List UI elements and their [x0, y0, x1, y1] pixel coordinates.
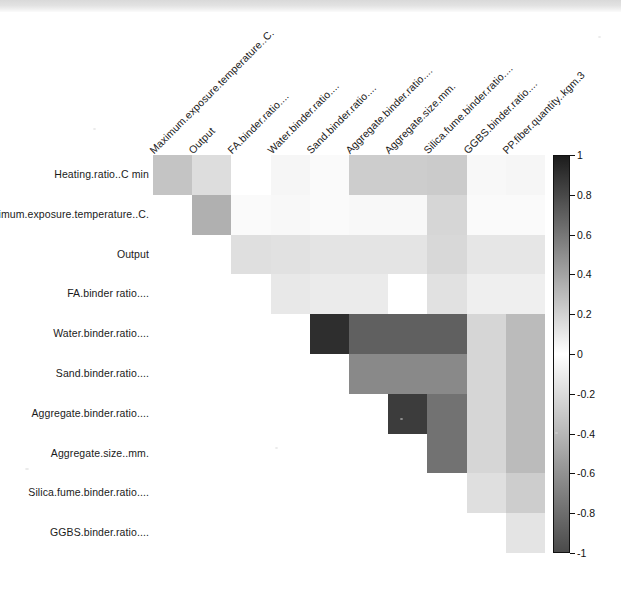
heatmap-cell: [506, 513, 545, 553]
heatmap-cell: [271, 195, 310, 235]
column-label-group: Maximum.exposure.temperature..C.OutputFA…: [0, 0, 621, 155]
heatmap-grid: [153, 155, 545, 553]
colorbar-tick: [570, 553, 575, 554]
column-label: GGBS.binder.ratio....: [461, 78, 538, 155]
heatmap-cell: [467, 394, 506, 434]
row-label: FA.binder ratio....: [67, 274, 149, 314]
colorbar-tick: [570, 195, 575, 196]
heatmap-cell: [349, 195, 388, 235]
heatmap-cell: [427, 434, 466, 474]
heatmap-cell: [192, 155, 231, 195]
heatmap-cell: [388, 235, 427, 275]
row-label: Aggregate.binder.ratio....: [31, 394, 149, 434]
heatmap-cell: [231, 235, 270, 275]
row-label: GGBS.binder.ratio....: [50, 513, 149, 553]
colorbar-tick-label: 0.4: [577, 269, 592, 280]
colorbar-tick: [570, 473, 575, 474]
column-label: Sand.binder.ratio....: [304, 82, 377, 155]
heatmap-cell: [271, 235, 310, 275]
heatmap-cell: [271, 155, 310, 195]
heatmap-cell: [427, 394, 466, 434]
heatmap-cell: [349, 274, 388, 314]
heatmap-cell: [349, 155, 388, 195]
row-label: Maximum.exposure.temperature..C.: [0, 195, 149, 235]
column-label: Output: [187, 125, 217, 155]
colorbar-tick-label: -0.8: [577, 508, 595, 519]
heatmap-cell: [506, 235, 545, 275]
heatmap-cell: [506, 155, 545, 195]
colorbar-tick: [570, 155, 575, 156]
row-label: Aggregate.size..mm.: [51, 434, 149, 474]
row-label: Silica.fume.binder.ratio....: [28, 473, 149, 513]
heatmap-cell: [192, 195, 231, 235]
scan-artifact: [598, 36, 601, 38]
colorbar-tick-label: 1: [577, 150, 583, 161]
colorbar-gradient: [553, 155, 570, 553]
heatmap-cell: [427, 354, 466, 394]
scan-artifact: [555, 432, 558, 434]
heatmap-cell: [467, 354, 506, 394]
colorbar-tick: [570, 434, 575, 435]
heatmap-cell: [388, 274, 427, 314]
colorbar-tick-label: 0.8: [577, 190, 592, 201]
heatmap-cell: [310, 314, 349, 354]
colorbar-tick-label: -0.6: [577, 468, 595, 479]
row-label: Water.binder.ratio....: [53, 314, 149, 354]
heatmap-cell: [427, 274, 466, 314]
heatmap-cell: [467, 434, 506, 474]
row-label: Output: [117, 235, 149, 275]
colorbar-tick: [570, 394, 575, 395]
colorbar-tick-label: -1: [577, 548, 586, 559]
heatmap-cell: [231, 155, 270, 195]
heatmap-cell: [467, 195, 506, 235]
heatmap-cell: [271, 274, 310, 314]
row-label: Sand.binder.ratio....: [56, 354, 149, 394]
column-label: Aggregate.size.mm.: [383, 80, 458, 155]
heatmap-cell: [427, 195, 466, 235]
heatmap-cell: [388, 195, 427, 235]
heatmap-cell: [467, 473, 506, 513]
heatmap-cell: [310, 155, 349, 195]
correlation-matrix-figure: Maximum.exposure.temperature..C.OutputFA…: [0, 0, 621, 589]
heatmap-cell: [467, 235, 506, 275]
heatmap-cell: [506, 195, 545, 235]
heatmap-cell: [506, 394, 545, 434]
heatmap-cell: [153, 155, 192, 195]
colorbar-tick: [570, 314, 575, 315]
heatmap-cell: [506, 314, 545, 354]
column-label: Water.binder.ratio....: [265, 80, 340, 155]
colorbar-tick: [570, 354, 575, 355]
heatmap-cell: [388, 155, 427, 195]
heatmap-cell: [427, 155, 466, 195]
heatmap-cell: [506, 354, 545, 394]
heatmap-cell: [506, 434, 545, 474]
scan-artifact: [275, 447, 278, 449]
column-label: PP.fiber.quantity..kgm.3: [500, 69, 586, 155]
colorbar-tick-label: 0.6: [577, 229, 592, 240]
colorbar-tick-label: 0.2: [577, 309, 592, 320]
heatmap-cell: [349, 235, 388, 275]
heatmap-cell: [467, 274, 506, 314]
heatmap-cell: [388, 314, 427, 354]
colorbar-tick: [570, 274, 575, 275]
heatmap-cell: [310, 235, 349, 275]
heatmap-cell: [310, 274, 349, 314]
heatmap-cell: [388, 354, 427, 394]
colorbar-tick-label: -0.4: [577, 428, 595, 439]
heatmap-cell: [427, 314, 466, 354]
heatmap-cell: [388, 394, 427, 434]
heatmap-cell: [349, 354, 388, 394]
heatmap-cell: [467, 314, 506, 354]
heatmap-cell: [467, 155, 506, 195]
heatmap-cell: [506, 473, 545, 513]
heatmap-cell: [231, 195, 270, 235]
heatmap-cell: [310, 195, 349, 235]
colorbar-tick-label: 0: [577, 349, 583, 360]
scan-artifact: [25, 468, 29, 470]
colorbar-tick: [570, 235, 575, 236]
colorbar-tick-label: -0.2: [577, 389, 595, 400]
colorbar-tick: [570, 513, 575, 514]
colorbar-legend: 10.80.60.40.20-0.2-0.4-0.6-0.8-1: [553, 155, 621, 553]
row-label: Heating.ratio..C min: [54, 155, 149, 195]
heatmap-cell: [427, 235, 466, 275]
